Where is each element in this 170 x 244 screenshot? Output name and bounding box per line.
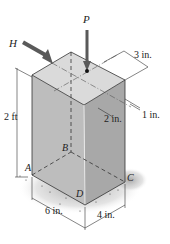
load-point: [85, 69, 89, 73]
dim-1in-label: 1 in.: [142, 109, 160, 120]
point-b-label: B: [62, 142, 68, 153]
dim-3in-label: 3 in.: [134, 49, 152, 60]
force-h: H: [8, 37, 53, 64]
point-a-label: A: [24, 162, 32, 173]
force-h-label: H: [8, 37, 18, 49]
point-d-label: D: [75, 188, 84, 199]
dim-6in-label: 6 in.: [45, 205, 63, 216]
dim-height: [15, 68, 32, 177]
force-p-label: P: [82, 13, 90, 25]
block: [32, 52, 131, 205]
dim-2in-label: 2 in.: [104, 113, 122, 124]
dim-4in-label: 4 in.: [97, 209, 115, 220]
column-diagram: P H 2 ft 3 in. 2 in. 1 in. A B C D 6 in.: [0, 0, 170, 244]
point-c-label: C: [127, 172, 134, 183]
dim-height-label: 2 ft: [4, 111, 18, 122]
